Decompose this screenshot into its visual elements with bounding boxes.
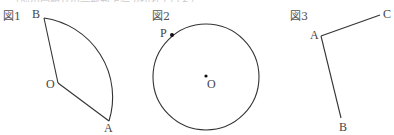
figure-1-label: 図1	[3, 7, 21, 23]
figure-2-circle	[153, 24, 259, 130]
fig1-point-o-label: O	[46, 77, 55, 92]
segment-oa	[58, 83, 109, 121]
figure-3-angle	[321, 15, 380, 118]
fig1-point-b-label: B	[32, 7, 40, 22]
ray-ac	[321, 15, 380, 36]
fig3-point-b-label: B	[339, 120, 347, 135]
fig3-point-a-label: A	[310, 28, 319, 43]
fig2-point-p-label: P	[160, 26, 167, 41]
figure-2-label: 図2	[152, 7, 170, 23]
arc-ab	[44, 18, 113, 121]
figure-3-label: 図3	[290, 7, 308, 23]
fig3-point-c-label: C	[383, 7, 391, 22]
fig2-point-o-label: O	[207, 77, 216, 92]
point-p	[170, 33, 174, 37]
ray-ab	[321, 36, 341, 118]
segment-ob	[44, 18, 58, 83]
fig1-point-a-label: A	[104, 121, 113, 135]
geometry-figures	[0, 0, 394, 135]
figure-1-sector	[44, 18, 113, 121]
